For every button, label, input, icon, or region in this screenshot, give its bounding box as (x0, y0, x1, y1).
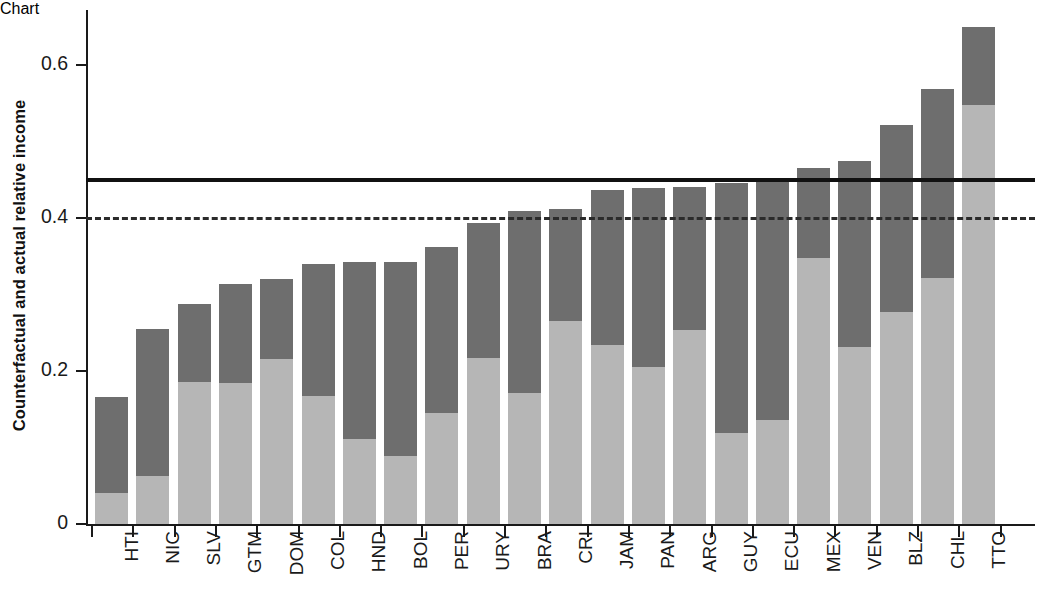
bar-hnd (343, 262, 376, 524)
y-axis-label-container: Counterfactual and actual relative incom… (0, 0, 40, 530)
bar-col (302, 264, 335, 524)
bar-per (425, 247, 458, 524)
bar-segment-counterfactual (343, 262, 376, 439)
x-axis-tick-label-text: GTM (244, 531, 266, 573)
bar-segment-counterfactual (838, 161, 871, 348)
bar-segment-counterfactual (219, 284, 252, 383)
x-axis-tick-label-text: ECU (781, 531, 803, 571)
bar-segment-actual (880, 312, 913, 524)
bar-segment-actual (632, 367, 665, 524)
bar-bra (508, 211, 541, 524)
x-axis-tick-label-text: HND (368, 531, 390, 572)
bar-segment-counterfactual (591, 190, 624, 345)
x-axis-line (86, 524, 1035, 526)
y-axis-tick-label: 0.2 (24, 358, 68, 381)
bar-segment-counterfactual (549, 209, 582, 321)
bar-guy (715, 183, 748, 524)
bar-segment-counterfactual (178, 304, 211, 382)
x-axis-tick-label-text: NIC (162, 531, 184, 564)
chart-figure: Counterfactual and actual relative incom… (0, 0, 1043, 589)
x-axis-tick-label-text: PER (451, 531, 473, 570)
bar-segment-actual (219, 383, 252, 524)
plot-area (95, 10, 1035, 524)
bar-segment-actual (178, 382, 211, 524)
bar-segment-counterfactual (962, 27, 995, 105)
x-axis-tick-label-text: DOM (286, 531, 308, 575)
x-axis-tick-label-bol: BOL (410, 531, 432, 589)
bar-tto (962, 27, 995, 524)
bar-segment-actual (962, 105, 995, 524)
bar-slv (178, 304, 211, 524)
x-axis-tick-label-ecu: ECU (781, 531, 803, 589)
bar-gtm (219, 284, 252, 524)
x-axis-tick-label-bra: BRA (534, 531, 556, 589)
x-axis-tick-label-text: SLV (203, 531, 225, 566)
x-axis-tick-label-text: JAM (616, 531, 638, 569)
bar-segment-counterfactual (95, 397, 128, 493)
x-axis-tick-label-arg: ARG (699, 531, 721, 589)
x-axis-tick-label-guy: GUY (740, 531, 762, 589)
bar-segment-actual (673, 330, 706, 524)
y-axis-label: Counterfactual and actual relative incom… (11, 99, 30, 430)
x-axis-tick-label-text: VEN (864, 531, 886, 570)
bar-segment-counterfactual (384, 262, 417, 456)
bar-segment-counterfactual (715, 183, 748, 433)
x-axis-tick-label-text: CHL (947, 531, 969, 569)
bar-segment-actual (302, 396, 335, 524)
bar-segment-actual (921, 278, 954, 524)
x-axis-tick-label-text: MEX (823, 531, 845, 572)
x-axis-tick (91, 526, 93, 537)
x-axis-tick-label-hti: HTI (121, 531, 143, 589)
bar-chl (921, 89, 954, 524)
x-axis-tick-label-gtm: GTM (244, 531, 266, 589)
bar-segment-actual (797, 258, 830, 524)
x-axis-tick-label-text: BOL (410, 531, 432, 569)
bar-segment-actual (343, 439, 376, 524)
x-axis-tick-label-slv: SLV (203, 531, 225, 589)
x-axis-tick-label-dom: DOM (286, 531, 308, 589)
x-axis-tick-label-per: PER (451, 531, 473, 589)
bar-dom (260, 279, 293, 524)
bar-nic (136, 329, 169, 524)
x-axis-tick-label-text: URY (492, 531, 514, 571)
x-axis-tick-label-text: ARG (699, 531, 721, 572)
x-axis-tick-label-hnd: HND (368, 531, 390, 589)
bar-segment-actual (591, 345, 624, 524)
bar-mex (797, 168, 830, 524)
bar-segment-actual (95, 493, 128, 524)
x-axis-tick-label-jam: JAM (616, 531, 638, 589)
bar-ven (838, 161, 871, 524)
bar-arg (673, 187, 706, 524)
bar-segment-actual (136, 476, 169, 524)
bar-segment-actual (508, 393, 541, 524)
bar-cri (549, 209, 582, 524)
bar-segment-actual (425, 413, 458, 524)
y-axis-tick-label: 0.6 (24, 52, 68, 75)
bar-segment-counterfactual (467, 223, 500, 358)
y-axis-tick (76, 523, 87, 525)
x-axis-tick-label-text: GUY (740, 531, 762, 572)
y-axis-tick (76, 370, 87, 372)
bar-bol (384, 262, 417, 524)
x-axis-tick-label-text: TTO (988, 531, 1010, 569)
x-axis-tick-label-nic: NIC (162, 531, 184, 589)
x-axis-tick-label-text: COL (327, 531, 349, 570)
bar-segment-actual (715, 433, 748, 524)
y-axis-tick-label: 0 (24, 511, 68, 534)
x-axis-tick-label-chl: CHL (947, 531, 969, 589)
bar-segment-counterfactual (508, 211, 541, 393)
bar-segment-actual (260, 359, 293, 524)
bar-segment-counterfactual (425, 247, 458, 413)
bar-blz (880, 125, 913, 524)
x-axis-tick-label-pan: PAN (657, 531, 679, 589)
bar-segment-actual (838, 347, 871, 524)
bar-pan (632, 188, 665, 524)
bar-segment-counterfactual (136, 329, 169, 476)
bar-segment-counterfactual (673, 187, 706, 331)
x-axis-tick-label-cri: CRI (575, 531, 597, 589)
bar-segment-actual (549, 321, 582, 524)
dashed-reference-line (86, 217, 1035, 220)
x-axis-tick-label-text: BLZ (905, 531, 927, 566)
bar-ury (467, 223, 500, 524)
bar-ecu (756, 182, 789, 524)
